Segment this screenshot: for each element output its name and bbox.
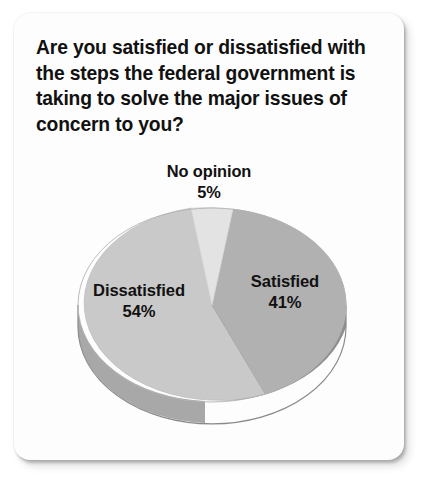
pie-label-satisfied: Satisfied 41%: [210, 271, 360, 313]
chart-card: Are you satisfied or dissatisfied with t…: [14, 13, 404, 460]
pie-label-no-opinion: No opinion 5%: [109, 161, 309, 203]
pie-label-dissatisfied: Dissatisfied 54%: [54, 280, 224, 322]
pie-chart-graphic: [14, 13, 404, 460]
pie-chart: No opinion 5% Dissatisfied 54% Satisfied…: [14, 13, 404, 460]
